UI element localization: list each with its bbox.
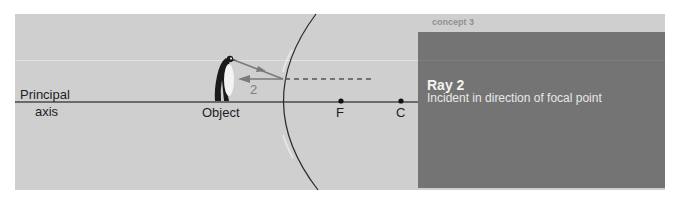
concept-label: concept 3 — [432, 17, 474, 27]
center-point-dot — [398, 98, 403, 103]
info-box: Ray 2 Incident in direction of focal poi… — [418, 32, 665, 188]
focal-point-label: F — [336, 106, 344, 120]
axis-label-principal: Principal — [20, 88, 70, 102]
info-box-band — [418, 60, 665, 61]
penguin-object-icon — [215, 56, 236, 101]
axis-label-axis: axis — [35, 105, 58, 119]
incident-arrowhead-icon — [256, 66, 266, 72]
center-point-label: C — [396, 106, 405, 120]
ray-number-label: 2 — [250, 82, 257, 97]
focal-point-dot — [338, 98, 343, 103]
reflected-arrowhead-icon — [238, 75, 250, 83]
info-box-description: Incident in direction of focal point — [427, 91, 602, 105]
object-label: Object — [202, 106, 240, 120]
